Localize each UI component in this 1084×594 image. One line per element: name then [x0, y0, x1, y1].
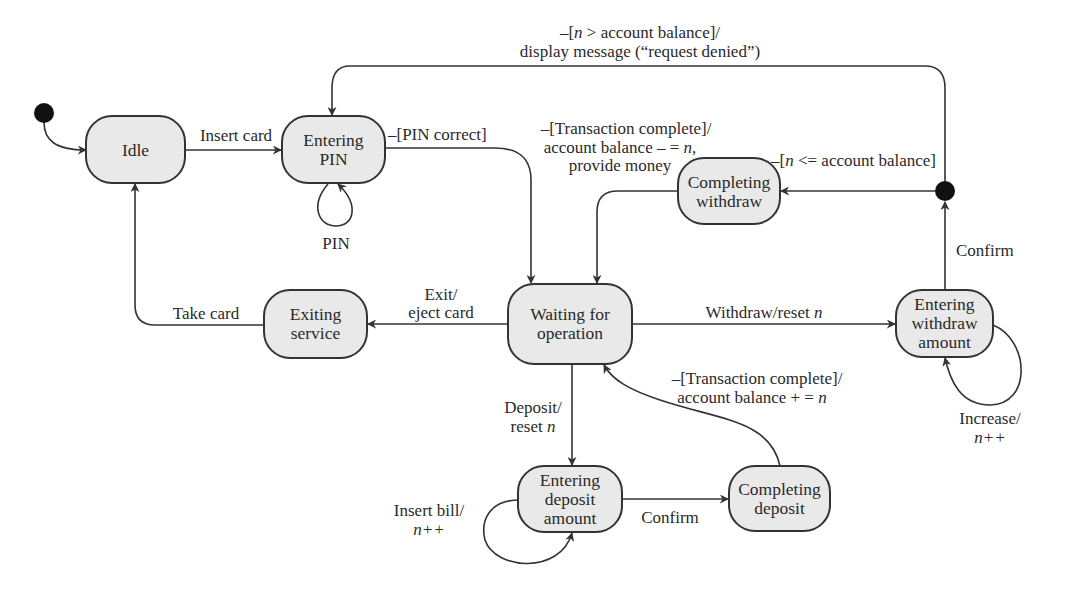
label-insert-bill-line1: Insert bill/ [394, 501, 465, 520]
decision-dot [935, 181, 955, 201]
label-deposit-complete-line1: –[Transaction complete]/ [671, 369, 843, 388]
label-withdraw-complete-line3: provide money [569, 156, 672, 175]
label-deposit-complete-line2: account balance + = n [677, 388, 826, 407]
label-increase-line1: Increase/ [959, 409, 1021, 428]
state-label: amount [918, 332, 971, 352]
label-deposit-line2: reset n [511, 417, 556, 436]
edge-initial-to-idle [44, 122, 86, 150]
state-label: operation [537, 323, 603, 343]
atm-state-diagram: Idle Entering PIN Completing withdraw Wa… [0, 0, 1084, 594]
state-label: service [291, 323, 341, 343]
state-label: Entering [540, 470, 601, 490]
state-idle: Idle [86, 116, 185, 183]
label-request-denied-line1: –[n > account balance]/ [559, 23, 720, 42]
state-label: Completing [688, 172, 771, 192]
label-pin-loop: PIN [322, 234, 349, 253]
label-pin-correct: –[PIN correct] [387, 125, 487, 144]
state-entering-deposit-amount: Entering deposit amount [518, 466, 622, 532]
label-insert-bill-line2: n++ [413, 520, 444, 539]
state-entering-withdraw-amount: Entering withdraw amount [896, 290, 993, 357]
state-label: amount [544, 508, 597, 528]
state-label: Waiting for [530, 304, 610, 324]
state-label: Exiting [290, 304, 342, 324]
state-completing-deposit: Completing deposit [729, 466, 830, 531]
state-label: Completing [738, 479, 821, 499]
state-label: Entering [303, 130, 364, 150]
state-label: withdraw [696, 191, 762, 211]
state-completing-withdraw: Completing withdraw [678, 158, 780, 224]
label-take-card: Take card [173, 304, 240, 323]
label-withdraw-complete-line2: account balance – = n, [544, 138, 697, 157]
label-insert-card: Insert card [200, 126, 273, 145]
edge-pin-correct [385, 148, 531, 283]
label-increase-line2: n++ [974, 428, 1005, 447]
state-label: PIN [319, 149, 348, 169]
edge-withdraw-complete [597, 191, 678, 283]
state-label: deposit [545, 489, 596, 509]
label-deposit-line1: Deposit/ [504, 398, 562, 417]
label-allowed: –[n <= account balance] [770, 151, 936, 170]
state-label: Entering [914, 294, 975, 314]
label-withdraw-complete-line1: –[Transaction complete]/ [540, 119, 712, 138]
initial-state-dot [34, 103, 54, 123]
state-label: deposit [754, 498, 805, 518]
label-exit-line1: Exit/ [424, 285, 457, 304]
state-label: withdraw [911, 313, 977, 333]
state-waiting-for-operation: Waiting for operation [508, 284, 632, 364]
edge-pin-loop [318, 184, 352, 226]
state-entering-pin: Entering PIN [282, 116, 385, 183]
label-request-denied-line2: display message (“request denied”) [520, 42, 760, 61]
label-exit-line2: eject card [408, 303, 474, 322]
label-withdraw: Withdraw/reset n [706, 303, 823, 322]
label-confirm-deposit: Confirm [641, 508, 699, 527]
state-exiting-service: Exiting service [264, 290, 367, 358]
state-label: Idle [122, 140, 149, 160]
label-confirm-withdraw: Confirm [956, 241, 1014, 260]
